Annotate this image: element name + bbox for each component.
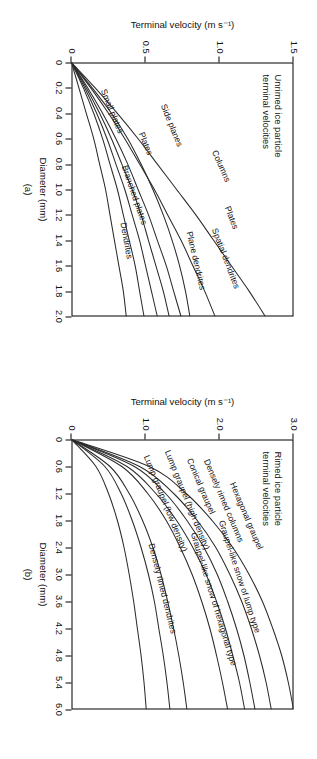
x-tick-label: 0.8 [53, 157, 63, 170]
x-tick-label: 4.8 [53, 649, 63, 662]
x-tick-label: 1.6 [53, 259, 63, 272]
x-tick-label: 1.2 [53, 487, 63, 500]
curve [71, 62, 157, 316]
x-tick [65, 655, 71, 656]
x-tick [65, 291, 71, 292]
x-tick [65, 214, 71, 215]
x-tick-label: 0.6 [53, 460, 63, 473]
x-tick-label: 0 [53, 436, 63, 441]
y-tick-label: 1.5 [288, 22, 298, 53]
panel-a: Unrimed ice particle terminal velocities… [0, 0, 317, 379]
x-tick [65, 466, 71, 467]
x-tick-label: 1.4 [53, 233, 63, 246]
y-tick [218, 433, 219, 439]
x-tick [65, 601, 71, 602]
x-tick-label: 0.4 [53, 106, 63, 119]
x-tick-label: 2.4 [53, 541, 63, 554]
panel-tag-b: (b) [22, 568, 33, 580]
y-tick-label: 3.0 [288, 399, 298, 430]
y-tick-label: 0 [66, 399, 76, 430]
figure-canvas: Unrimed ice particle terminal velocities… [0, 0, 317, 759]
x-tick [65, 265, 71, 266]
y-tick [144, 56, 145, 62]
y-axis-title-a: Terminal velocity (m s⁻¹) [130, 18, 234, 29]
curve [71, 62, 181, 316]
x-tick-label: 4.2 [53, 622, 63, 635]
x-tick [65, 87, 71, 88]
x-tick [65, 164, 71, 165]
x-tick [65, 574, 71, 575]
x-tick [65, 628, 71, 629]
x-tick-label: 5.4 [53, 676, 63, 689]
x-tick [65, 493, 71, 494]
x-tick [65, 138, 71, 139]
x-tick-label: 2.0 [53, 310, 63, 323]
y-tick [292, 56, 293, 62]
x-tick [65, 240, 71, 241]
x-axis-title-a: Diameter (mm) [37, 157, 48, 221]
y-tick [218, 56, 219, 62]
x-tick-label: 1.8 [53, 284, 63, 297]
x-tick-label: 3.6 [53, 595, 63, 608]
x-tick-label: 0.2 [53, 81, 63, 94]
x-tick [65, 316, 71, 317]
x-tick-label: 1.0 [53, 183, 63, 196]
x-tick [65, 709, 71, 710]
panel-b: Rimed ice particle terminal velocities 0… [0, 379, 317, 759]
y-tick-label: 0 [66, 22, 76, 53]
x-tick [65, 113, 71, 114]
y-axis-title-b: Terminal velocity (m s⁻¹) [130, 395, 234, 406]
x-tick [65, 520, 71, 521]
x-tick [65, 189, 71, 190]
x-axis-title-b: Diameter (mm) [37, 542, 48, 606]
rotated-figure-wrapper: Unrimed ice particle terminal velocities… [0, 0, 317, 759]
y-tick [70, 56, 71, 62]
panel-tag-a: (a) [22, 183, 33, 195]
curve [71, 439, 146, 709]
x-tick-label: 6.0 [53, 703, 63, 716]
y-tick [144, 433, 145, 439]
x-tick [65, 682, 71, 683]
x-tick [65, 547, 71, 548]
y-tick [70, 433, 71, 439]
x-tick-label: 0.6 [53, 132, 63, 145]
x-tick-label: 3.0 [53, 568, 63, 581]
y-tick [292, 433, 293, 439]
x-tick-label: 1.8 [53, 514, 63, 527]
x-tick-label: 0 [53, 59, 63, 64]
x-tick-label: 1.2 [53, 208, 63, 221]
